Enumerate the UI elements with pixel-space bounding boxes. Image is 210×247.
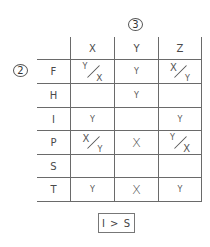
cell-f-z: X Y xyxy=(159,60,201,83)
column-header-y: Y xyxy=(115,37,158,59)
cell-t-x: Y xyxy=(71,178,114,201)
logic-grid-diagram: 3 2 X Y Z F H I P S T Y X Y X Y Y xyxy=(0,0,210,247)
split-mark: Y X xyxy=(168,134,192,152)
check-mark-icon: Y xyxy=(134,67,139,76)
row-header-p: P xyxy=(37,131,70,154)
cell-t-y: X xyxy=(115,178,158,201)
cell-h-x xyxy=(71,84,114,107)
split-mark: X Y xyxy=(81,134,105,152)
frac-bottom: X xyxy=(183,143,190,154)
cell-p-z: Y X xyxy=(159,131,201,154)
cell-s-z xyxy=(159,155,201,177)
check-mark-icon: Y xyxy=(134,91,139,100)
constraint-box: I > S xyxy=(98,213,135,233)
check-mark-icon: Y xyxy=(178,185,183,194)
cross-mark-icon: X xyxy=(132,135,141,150)
frac-top: X xyxy=(83,133,90,144)
check-mark-icon: Y xyxy=(90,185,95,194)
column-header-x: X xyxy=(71,37,114,59)
cell-h-z xyxy=(159,84,201,107)
frac-top: Y xyxy=(170,133,175,142)
cell-p-y: X xyxy=(115,131,158,154)
cell-t-z: Y xyxy=(159,178,201,201)
row-header-t: T xyxy=(37,178,70,201)
row-header-h: H xyxy=(37,84,70,107)
split-mark: Y X xyxy=(81,63,105,81)
frac-top: Y xyxy=(83,62,88,71)
row-header-i: I xyxy=(37,108,70,130)
row-header-f: F xyxy=(37,60,70,83)
column-marker: 3 xyxy=(128,18,143,31)
check-mark-icon: Y xyxy=(178,115,183,124)
frac-bottom: X xyxy=(96,73,102,83)
cell-s-x xyxy=(71,155,114,177)
cell-i-y xyxy=(115,108,158,130)
cell-f-y: Y xyxy=(115,60,158,83)
column-header-z: Z xyxy=(159,37,201,59)
cell-f-x: Y X xyxy=(71,60,114,83)
frac-bottom: Y xyxy=(185,74,190,83)
grid-hline xyxy=(37,201,202,202)
frac-top: X xyxy=(170,62,177,73)
cell-h-y: Y xyxy=(115,84,158,107)
row-marker: 2 xyxy=(13,64,28,77)
cross-mark-icon: X xyxy=(132,182,141,197)
frac-bottom: Y xyxy=(98,145,103,154)
cell-s-y xyxy=(115,155,158,177)
cell-i-z: Y xyxy=(159,108,201,130)
row-header-s: S xyxy=(37,155,70,177)
check-mark-icon: Y xyxy=(90,115,95,124)
cell-i-x: Y xyxy=(71,108,114,130)
cell-p-x: X Y xyxy=(71,131,114,154)
split-mark: X Y xyxy=(168,63,192,81)
